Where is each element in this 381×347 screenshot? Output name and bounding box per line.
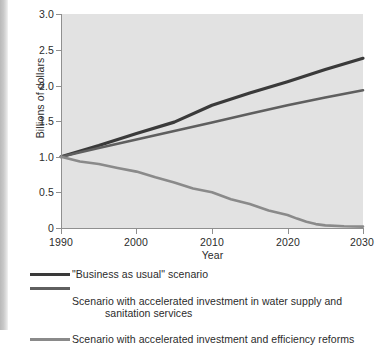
y-tick-mark-3.0 bbox=[56, 14, 61, 15]
y-tick-mark-1.0 bbox=[56, 157, 61, 158]
y-tick-label-0: 0 bbox=[20, 223, 54, 233]
y-tick-mark-2.5 bbox=[56, 50, 61, 51]
plot-area bbox=[61, 14, 363, 228]
legend-item-accelerated-investment-wss: Scenario with accelerated investment in … bbox=[30, 282, 375, 332]
x-tick-mark-2000 bbox=[136, 229, 137, 234]
x-axis-title: Year bbox=[61, 249, 364, 261]
series-line-accelerated-investment-efficiency bbox=[61, 157, 363, 227]
x-tick-mark-1990 bbox=[61, 229, 62, 234]
plot-lines-svg bbox=[61, 14, 363, 228]
x-tick-label-2010: 2010 bbox=[189, 236, 235, 248]
legend-swatch-cell bbox=[30, 282, 72, 295]
series-line-accelerated-investment-wss bbox=[61, 90, 363, 156]
legend-label-business-as-usual: "Business as usual" scenario bbox=[72, 268, 208, 281]
legend-label-accelerated-investment-wss: Scenario with accelerated investment in … bbox=[72, 282, 342, 332]
y-axis-line bbox=[61, 14, 62, 229]
legend-item-accelerated-investment-efficiency: Scenario with accelerated investment and… bbox=[30, 333, 375, 346]
y-tick-mark-1.5 bbox=[56, 121, 61, 122]
series-line-business-as-usual bbox=[61, 58, 363, 156]
x-tick-label-1990: 1990 bbox=[38, 236, 84, 248]
legend-swatch-cell bbox=[30, 333, 72, 346]
chart-legend: "Business as usual" scenario Scenario wi… bbox=[30, 268, 375, 347]
legend-swatch-accelerated-investment-efficiency bbox=[30, 338, 70, 341]
legend-swatch-accelerated-investment-wss bbox=[30, 287, 70, 290]
legend-item-business-as-usual: "Business as usual" scenario bbox=[30, 268, 375, 281]
legend-swatch-business-as-usual bbox=[30, 273, 70, 276]
x-tick-label-2030: 2030 bbox=[339, 236, 381, 248]
legend-label-line2: sanitation services bbox=[72, 307, 342, 320]
x-tick-mark-2030 bbox=[363, 229, 364, 234]
legend-swatch-cell bbox=[30, 268, 72, 281]
y-tick-mark-2.0 bbox=[56, 86, 61, 87]
y-tick-label-0.5: 0.5 bbox=[20, 187, 54, 197]
legend-label-line1: Scenario with accelerated investment in … bbox=[72, 295, 342, 307]
y-axis-title: Billions of dollars bbox=[34, 38, 46, 158]
y-tick-mark-0.5 bbox=[56, 192, 61, 193]
y-tick-label-3.0: 3.0 bbox=[20, 9, 54, 19]
legend-label-accelerated-investment-efficiency: Scenario with accelerated investment and… bbox=[72, 333, 354, 346]
x-tick-label-2000: 2000 bbox=[113, 236, 159, 248]
x-tick-mark-2010 bbox=[212, 229, 213, 234]
x-tick-mark-2020 bbox=[288, 229, 289, 234]
x-tick-label-2020: 2020 bbox=[265, 236, 311, 248]
